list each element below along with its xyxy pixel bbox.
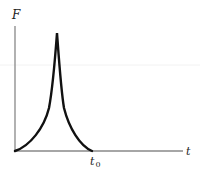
force-time-diagram: F t t0 [0, 0, 200, 173]
force-curve [15, 33, 92, 151]
t0-marker-label: t0 [90, 156, 101, 169]
y-axis-label: F [12, 9, 20, 21]
diagram-canvas [0, 0, 200, 173]
t0-marker-subscript: 0 [95, 160, 100, 169]
t0-marker-base: t [90, 155, 94, 168]
x-axis-label: t [186, 146, 190, 157]
